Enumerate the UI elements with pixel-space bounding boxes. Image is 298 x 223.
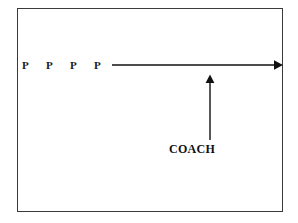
player-marker-1: P (22, 60, 29, 71)
player-marker-2: P (46, 60, 53, 71)
diagram-canvas: P P P P COACH (0, 0, 298, 223)
field-border-rectangle (17, 8, 283, 212)
coach-label: COACH (169, 143, 215, 156)
player-marker-3: P (70, 60, 77, 71)
player-marker-4: P (94, 60, 101, 71)
